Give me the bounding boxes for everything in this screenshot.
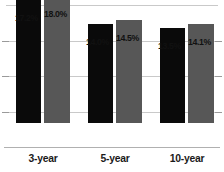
value-label-series1-cat1: 14.0% xyxy=(86,36,109,47)
category-label-2: 10-year xyxy=(160,152,215,164)
value-label-series1-cat0: 17.2% xyxy=(15,12,38,23)
plot-area: 17.2% 18.0% 14.0% 14.5% 13.5% 14.1% xyxy=(0,0,224,148)
category-label-0: 3-year xyxy=(16,152,71,164)
bar-chart: 17.2% 18.0% 14.0% 14.5% 13.5% 14.1% 3-ye… xyxy=(0,0,224,172)
value-label-series2-cat0: 18.0% xyxy=(44,8,67,19)
value-label-series2-cat2: 14.1% xyxy=(188,36,211,47)
value-label-series1-cat2: 13.5% xyxy=(158,40,181,51)
category-label-1: 5-year xyxy=(88,152,143,164)
value-label-series2-cat1: 14.5% xyxy=(116,32,139,43)
